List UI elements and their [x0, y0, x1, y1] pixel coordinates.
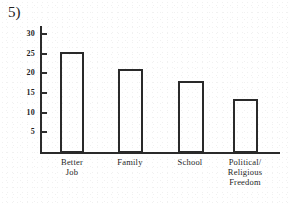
figure-canvas: 5) 51015202530 Better JobFamilySchoolPol…: [0, 0, 291, 205]
y-tick-label: 20: [13, 68, 35, 77]
y-tick-label: 10: [13, 108, 35, 117]
y-tick-label: 30: [13, 29, 35, 38]
y-tick-mark: [41, 53, 47, 55]
bar-chart-plot: 51015202530 Better JobFamilySchoolPoliti…: [0, 0, 291, 205]
bar: [233, 99, 258, 153]
y-tick-mark: [41, 131, 47, 133]
category-label: Family: [104, 157, 156, 167]
y-axis-line: [40, 26, 42, 154]
y-tick-mark: [41, 72, 47, 74]
y-tick-label: 5: [13, 127, 35, 136]
bar: [118, 69, 143, 153]
y-tick-mark: [41, 33, 47, 35]
y-tick-label: 25: [13, 49, 35, 58]
bar: [60, 52, 84, 153]
category-label: Better Job: [46, 157, 98, 177]
bar: [178, 81, 204, 153]
category-label: School: [164, 157, 216, 167]
y-tick-label: 15: [13, 88, 35, 97]
y-tick-mark: [41, 112, 47, 114]
category-label: Political/ Religious Freedom: [219, 157, 271, 187]
y-tick-mark: [41, 92, 47, 94]
